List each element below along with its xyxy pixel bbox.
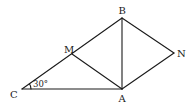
label-M: M <box>64 44 74 55</box>
angle-arc-C <box>29 84 31 89</box>
segment-NA <box>122 53 174 89</box>
geometry-figure: B M N C A 30° <box>0 0 194 106</box>
label-N: N <box>177 48 186 59</box>
label-A: A <box>118 93 127 104</box>
segment-BN <box>122 18 174 53</box>
segment-MA <box>72 54 122 89</box>
label-B: B <box>119 5 126 16</box>
label-C: C <box>10 89 18 100</box>
angle-label-C: 30° <box>33 79 48 89</box>
